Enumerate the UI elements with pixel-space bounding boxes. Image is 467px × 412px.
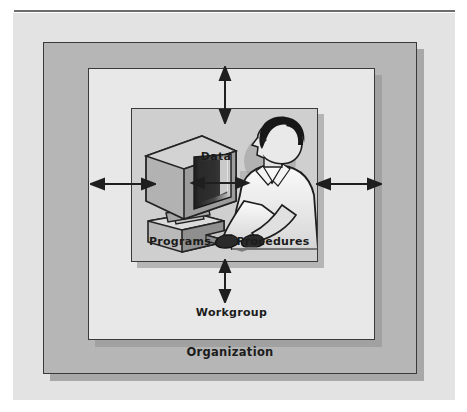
label-programs: Programs — [140, 235, 220, 248]
label-organization: Organization — [43, 345, 417, 359]
label-workgroup: Workgroup — [88, 306, 375, 319]
figure-root: Data Programs Procedures Workgroup Organ… — [0, 0, 467, 412]
label-procedures: Procedures — [228, 235, 318, 248]
figure-top-rule — [14, 10, 455, 12]
arrow-top-double-headed — [218, 66, 232, 124]
arrow-bottom-double-headed — [218, 259, 232, 303]
arrow-right-double-headed — [316, 176, 382, 192]
caption-ghost-text — [0, 0, 467, 10]
label-data: Data — [186, 150, 246, 163]
arrow-left-double-headed — [90, 176, 156, 192]
